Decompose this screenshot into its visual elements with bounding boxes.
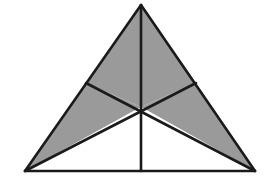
figure-stage: [0, 0, 265, 179]
triangle-median-diagram: [0, 0, 265, 179]
